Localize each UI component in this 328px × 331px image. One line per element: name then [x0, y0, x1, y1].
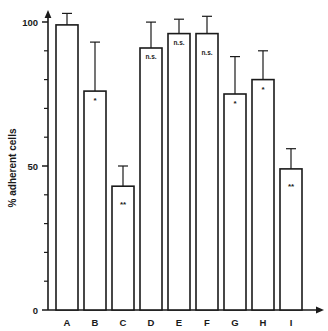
bar-group-D: n.s. D	[140, 22, 162, 328]
x-tick-label-B: B	[92, 317, 99, 328]
x-tick-label-F: F	[204, 317, 210, 328]
x-tick-label-A: A	[64, 317, 71, 328]
y-tick-label-0: 0	[33, 305, 38, 316]
bar-D	[140, 48, 162, 310]
significance-marker-E: n.s.	[173, 39, 184, 46]
bar-group-E: n.s. E	[168, 19, 190, 328]
significance-marker-C: **	[120, 200, 127, 209]
bar-group-B: * B	[84, 42, 106, 328]
y-tick-label-50: 50	[27, 161, 38, 172]
x-tick-label-C: C	[120, 317, 127, 328]
x-tick-label-I: I	[290, 317, 293, 328]
bar-group-C: ** C	[112, 166, 134, 328]
bar-G	[224, 94, 246, 310]
bar-B	[84, 91, 106, 310]
significance-marker-I: **	[288, 182, 295, 191]
bar-group-I: ** I	[280, 149, 302, 328]
x-tick-label-H: H	[260, 317, 267, 328]
x-tick-label-G: G	[231, 317, 238, 328]
bar-H	[252, 80, 274, 310]
bar-group-G: * G	[224, 57, 246, 328]
bar-E	[168, 34, 190, 310]
bar-A	[56, 25, 78, 310]
bar-group-F: n.s. F	[196, 16, 218, 328]
significance-marker-F: n.s.	[201, 49, 212, 56]
y-tick-marks-major	[42, 22, 48, 310]
bar-F	[196, 34, 218, 310]
y-axis-title: % adherent cells	[7, 128, 18, 207]
x-axis-arrow-icon	[316, 307, 324, 314]
y-tick-label-100: 100	[22, 17, 38, 28]
x-tick-label-D: D	[148, 317, 155, 328]
y-axis	[45, 10, 52, 310]
chart-svg: 0 50 100 % adherent cells A * B **	[0, 0, 328, 331]
y-axis-arrow-icon	[45, 10, 52, 18]
bar-group-A: A	[56, 13, 78, 328]
x-tick-label-E: E	[176, 317, 182, 328]
significance-marker-D: n.s.	[145, 53, 156, 60]
bar-chart: 0 50 100 % adherent cells A * B **	[0, 0, 328, 331]
bar-group-H: * H	[252, 51, 274, 328]
